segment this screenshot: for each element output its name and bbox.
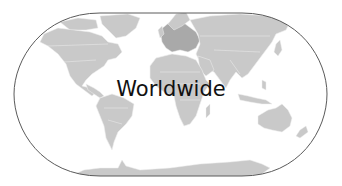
new-zealand-shape	[296, 126, 308, 138]
japan-shape	[274, 40, 282, 56]
map-label: Worldwide	[0, 75, 342, 103]
madagascar-shape	[206, 104, 210, 118]
greenland-shape	[100, 14, 140, 38]
australia-shape	[258, 104, 292, 132]
antarctica-shape	[70, 160, 270, 178]
arctic-islands-shape	[60, 18, 98, 30]
